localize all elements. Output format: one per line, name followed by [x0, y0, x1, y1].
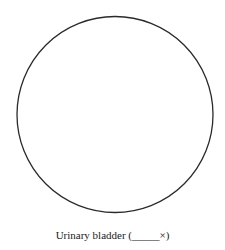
- caption-label: Urinary bladder (: [56, 229, 132, 241]
- drawing-area-circle: [17, 17, 213, 213]
- microscope-view-figure: Urinary bladder (_____×): [0, 0, 225, 250]
- magnification-blank: _____: [132, 229, 160, 241]
- figure-caption: Urinary bladder (_____×): [0, 229, 225, 241]
- microscope-field-circle: [0, 0, 225, 250]
- caption-suffix: ×): [159, 229, 169, 241]
